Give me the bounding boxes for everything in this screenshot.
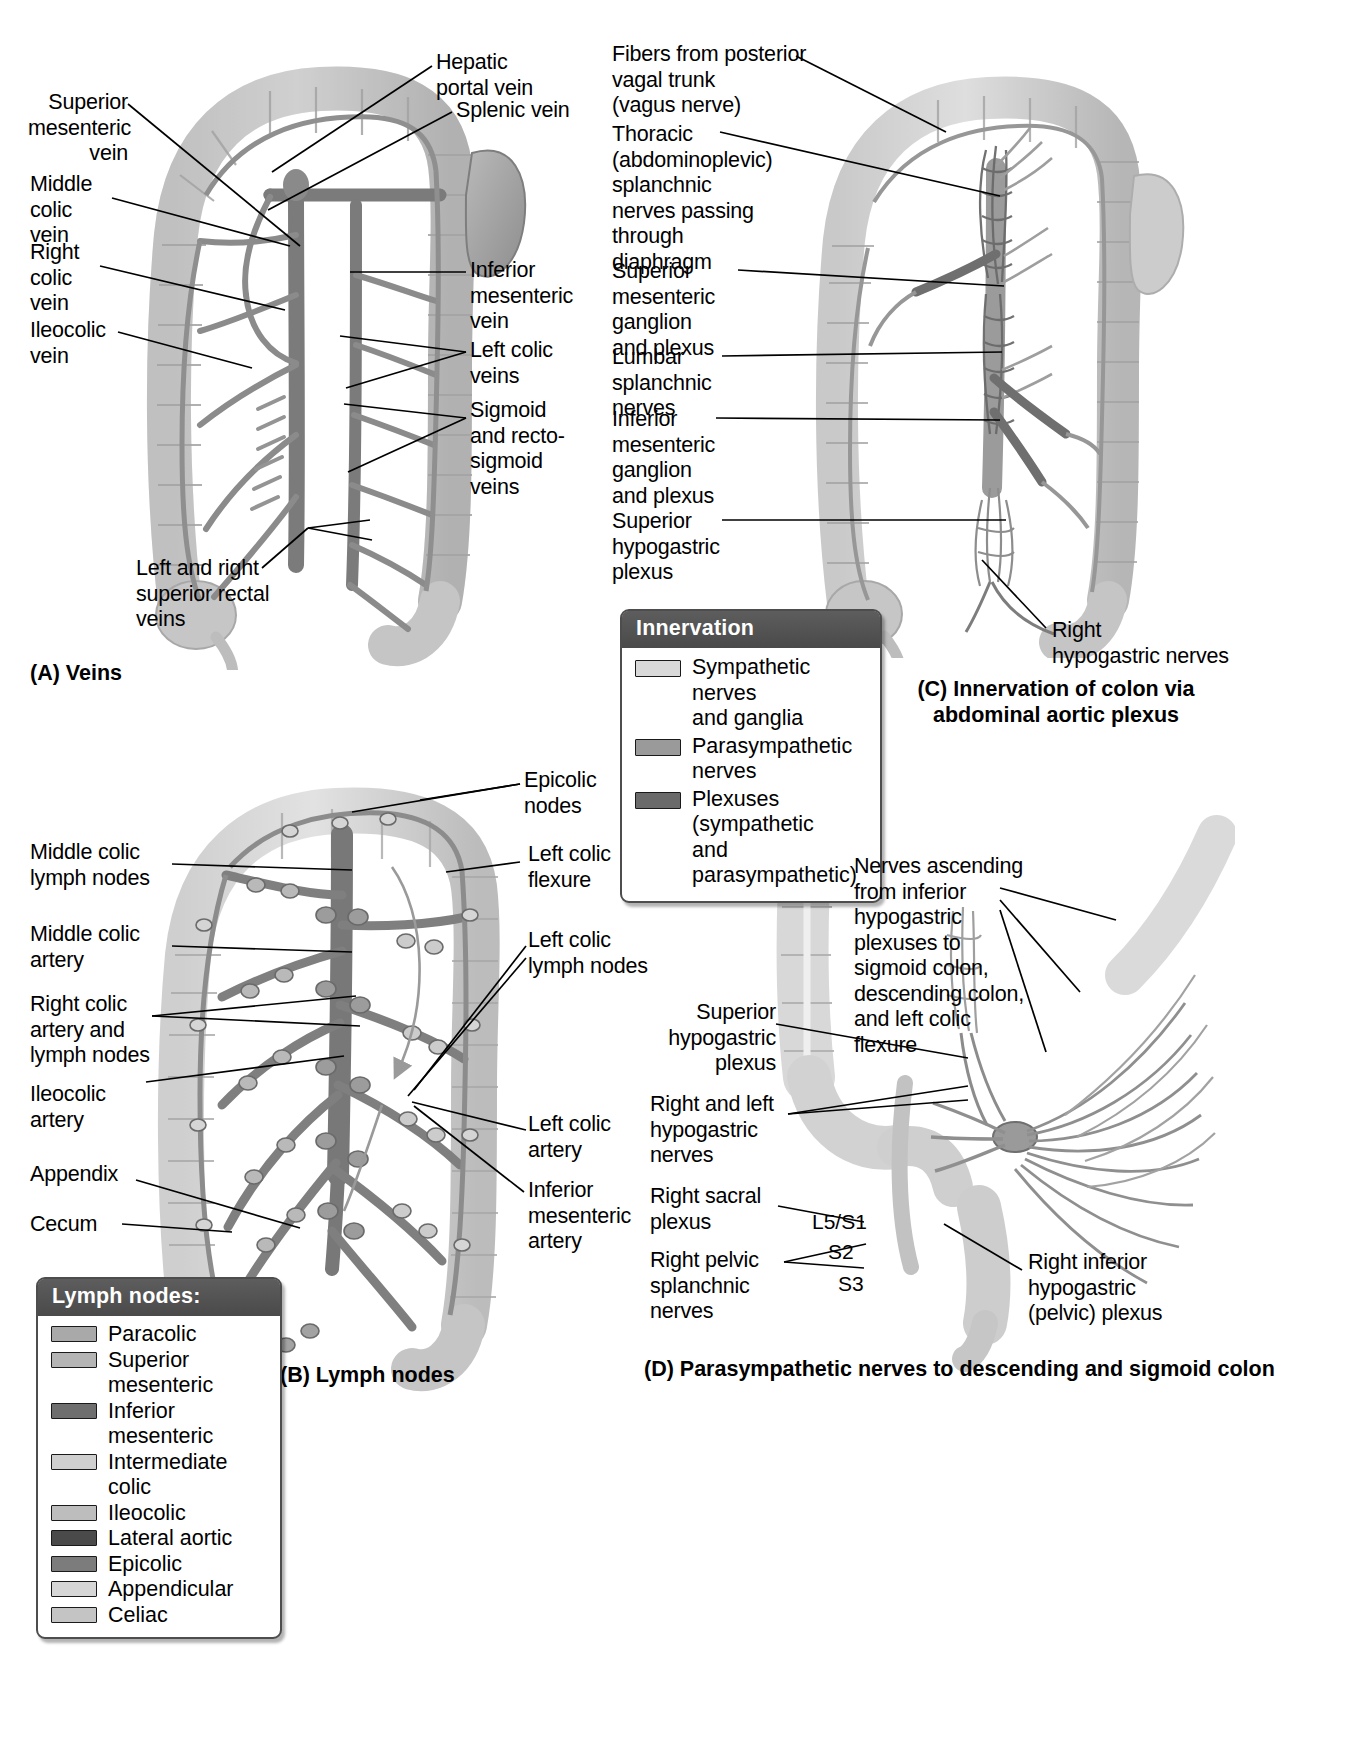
label-sigmoid-rectosigmoid-veins: Sigmoid and recto- sigmoid veins xyxy=(470,398,620,500)
label-right-colic-vein: Right colic vein xyxy=(30,240,130,317)
spinal-level-s3: S3 xyxy=(838,1272,864,1296)
legend-item-ileocolic: Ileocolic xyxy=(51,1501,270,1527)
panel-c-artwork xyxy=(790,58,1210,658)
legend-item-sympathetic: Sympathetic nerves and ganglia xyxy=(635,655,870,732)
label-cecum: Cecum xyxy=(30,1212,170,1238)
label-middle-colic-artery: Middle colic artery xyxy=(30,922,180,973)
label-right-colic-artery-and-lymph-nodes: Right colic artery and lymph nodes xyxy=(30,992,190,1069)
legend-label-inferior-mesenteric: Inferior mesenteric xyxy=(108,1399,270,1450)
panel-c-caption: (C) Innervation of colon via abdominal a… xyxy=(866,676,1246,728)
label-right-and-left-hypogastric-nerves: Right and left hypogastric nerves xyxy=(650,1092,830,1169)
legend-swatch-paracolic xyxy=(51,1326,97,1342)
label-inferior-mesenteric-vein: Inferior mesenteric vein xyxy=(470,258,620,335)
legend-swatch-superior-mesenteric xyxy=(51,1352,97,1368)
lymph-legend-body: Paracolic Superior mesenteric Inferior m… xyxy=(38,1316,280,1637)
label-ileocolic-vein: Ileocolic vein xyxy=(30,318,140,369)
label-vagal-fibers: Fibers from posterior vagal trunk (vagus… xyxy=(612,42,822,119)
label-nerves-ascending: Nerves ascending from inferior hypogastr… xyxy=(854,854,1084,1058)
figure-page: Superior mesenteric vein Middle colic ve… xyxy=(0,0,1369,1749)
label-middle-colic-vein: Middle colic vein xyxy=(30,172,130,249)
innervation-legend-title: Innervation xyxy=(622,611,880,648)
label-left-colic-lymph-nodes: Left colic lymph nodes xyxy=(528,928,688,979)
legend-label-parasympathetic: Parasympathetic nerves xyxy=(692,734,852,785)
label-epicolic-nodes: Epicolic nodes xyxy=(524,768,674,819)
label-right-hypogastric-nerves: Right hypogastric nerves xyxy=(1052,618,1282,669)
legend-label-appendicular: Appendicular xyxy=(108,1577,234,1603)
label-middle-colic-lymph-nodes: Middle colic lymph nodes xyxy=(30,840,180,891)
label-right-inferior-hypogastric-plexus: Right inferior hypogastric (pelvic) plex… xyxy=(1028,1250,1228,1327)
legend-label-lateral-aortic: Lateral aortic xyxy=(108,1526,232,1552)
legend-label-sympathetic: Sympathetic nerves and ganglia xyxy=(692,655,870,732)
legend-swatch-sympathetic xyxy=(635,660,681,677)
legend-label-celiac: Celiac xyxy=(108,1603,168,1629)
label-splenic-vein: Splenic vein xyxy=(456,98,626,124)
label-ileocolic-artery: Ileocolic artery xyxy=(30,1082,180,1133)
label-thoracic-splanchnic-nerves: Thoracic (abdominoplevic) splanchnic ner… xyxy=(612,122,812,275)
panel-b-caption: (B) Lymph nodes xyxy=(280,1362,455,1388)
legend-label-paracolic: Paracolic xyxy=(108,1322,196,1348)
legend-label-plexuses: Plexuses (sympathetic and parasympatheti… xyxy=(692,787,870,889)
legend-swatch-lateral-aortic xyxy=(51,1530,97,1546)
legend-label-ileocolic: Ileocolic xyxy=(108,1501,186,1527)
legend-label-epicolic: Epicolic xyxy=(108,1552,182,1578)
label-inferior-mesenteric-ganglion: Inferior mesenteric ganglion and plexus xyxy=(612,407,802,509)
label-left-colic-flexure: Left colic flexure xyxy=(528,842,688,893)
panel-d-caption: (D) Parasympathetic nerves to descending… xyxy=(644,1356,1275,1382)
spinal-level-l5-s1: L5/S1 xyxy=(812,1210,867,1234)
legend-swatch-intermediate-colic xyxy=(51,1454,97,1470)
label-right-pelvic-splanchnic-nerves: Right pelvic splanchnic nerves xyxy=(650,1248,810,1325)
legend-item-intermediate-colic: Intermediate colic xyxy=(51,1450,270,1501)
legend-swatch-ileocolic xyxy=(51,1505,97,1521)
legend-label-intermediate-colic: Intermediate colic xyxy=(108,1450,270,1501)
label-superior-hypogastric-plexus-c: Superior hypogastric plexus xyxy=(612,509,802,586)
legend-swatch-parasympathetic xyxy=(635,739,681,756)
lymph-nodes-legend: Lymph nodes: Paracolic Superior mesenter… xyxy=(36,1277,282,1639)
label-left-colic-veins: Left colic veins xyxy=(470,338,620,389)
label-superior-mesenteric-vein: Superior mesenteric vein xyxy=(28,90,128,167)
legend-swatch-appendicular xyxy=(51,1581,97,1597)
legend-swatch-inferior-mesenteric xyxy=(51,1403,97,1419)
legend-swatch-celiac xyxy=(51,1607,97,1623)
legend-item-lateral-aortic: Lateral aortic xyxy=(51,1526,270,1552)
label-hepatic-portal-vein: Hepatic portal vein xyxy=(436,50,596,101)
panel-a-caption: (A) Veins xyxy=(30,660,122,686)
label-superior-rectal-veins: Left and right superior rectal veins xyxy=(136,556,366,633)
spinal-level-s2: S2 xyxy=(828,1240,854,1264)
legend-label-superior-mesenteric: Superior mesenteric xyxy=(108,1348,270,1399)
legend-swatch-epicolic xyxy=(51,1556,97,1572)
legend-item-superior-mesenteric: Superior mesenteric xyxy=(51,1348,270,1399)
legend-item-appendicular: Appendicular xyxy=(51,1577,270,1603)
label-right-sacral-plexus: Right sacral plexus xyxy=(650,1184,810,1235)
legend-item-paracolic: Paracolic xyxy=(51,1322,270,1348)
legend-item-inferior-mesenteric: Inferior mesenteric xyxy=(51,1399,270,1450)
label-appendix: Appendix xyxy=(30,1162,170,1188)
label-superior-hypogastric-plexus-d: Superior hypogastric plexus xyxy=(616,1000,776,1077)
lymph-legend-title: Lymph nodes: xyxy=(38,1279,280,1316)
legend-item-celiac: Celiac xyxy=(51,1603,270,1629)
legend-item-epicolic: Epicolic xyxy=(51,1552,270,1578)
